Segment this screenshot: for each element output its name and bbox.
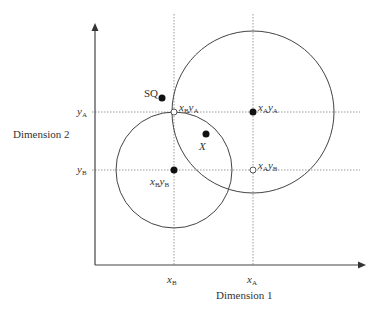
- x-axis-label: Dimension 1: [216, 290, 273, 301]
- point-xB-yB: [171, 167, 178, 174]
- tick-yA: yA: [77, 106, 87, 119]
- tick-xA: xA: [247, 274, 257, 287]
- label-xA-yB: xAyB: [258, 160, 278, 173]
- tick-xB: xB: [167, 274, 177, 287]
- point-xB-yA: [171, 109, 177, 115]
- y-axis-label: Dimension 2: [13, 129, 70, 140]
- label-x: X: [199, 141, 206, 152]
- x-axis-arrow-icon: [358, 262, 366, 269]
- point-x: [203, 131, 210, 138]
- point-xA-yB: [250, 167, 256, 173]
- diagram-canvas: [0, 0, 385, 313]
- point-xA-yA: [250, 109, 257, 116]
- label-xB-yA: xByA: [179, 102, 199, 115]
- y-axis-arrow-icon: [92, 23, 99, 31]
- point-sq: [159, 95, 166, 102]
- guide-lines: [92, 14, 360, 265]
- label-xB-yB: xByB: [150, 176, 169, 189]
- label-xA-yA: xAyA: [258, 102, 278, 115]
- tick-yB: yB: [77, 164, 87, 177]
- label-sq: SQ: [144, 88, 158, 99]
